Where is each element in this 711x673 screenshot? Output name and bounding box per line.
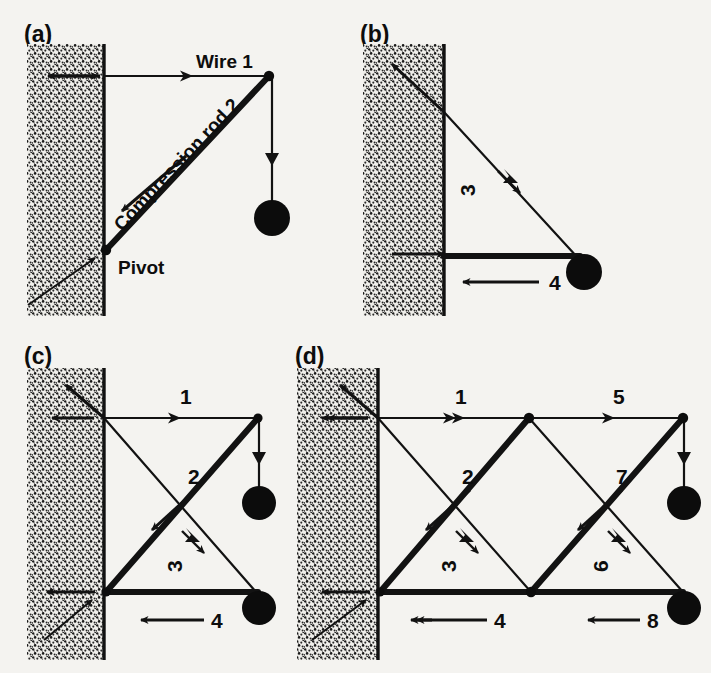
joint-c-top-right — [253, 413, 262, 422]
joint-a-pivot — [101, 245, 111, 255]
joint-d-top-mid — [524, 413, 534, 423]
joint-a-top — [264, 71, 274, 81]
joint-c-bottom-left — [101, 587, 110, 596]
load-hanging-weight-bottom-c — [242, 591, 276, 625]
wall-b — [363, 44, 444, 316]
load-hanging-weight-b — [566, 254, 602, 290]
wall-d — [297, 368, 378, 660]
member-4-number-d: 4 — [494, 609, 506, 632]
member-6-number-d: 6 — [589, 560, 612, 572]
member-8-number-d: 8 — [647, 609, 659, 632]
member-2-number-d: 2 — [462, 465, 474, 488]
member-4-number-c: 4 — [211, 609, 223, 632]
load-hanging-weight-bottom-d — [667, 591, 701, 625]
member-2-number-c: 2 — [188, 465, 200, 488]
joint-d-top-right — [678, 413, 688, 423]
joint-d-bottom-left — [375, 587, 384, 596]
panel-a-label: (a) — [24, 21, 52, 47]
wall-c — [27, 368, 104, 660]
wall-a — [27, 44, 104, 316]
panel-b-label: (b) — [360, 21, 389, 47]
pivot-label: Pivot — [118, 257, 165, 278]
panel-c-label: (c) — [24, 343, 52, 369]
figure-canvas: (a) Wire 1 — [0, 0, 711, 673]
joint-d-bottom-mid — [526, 587, 536, 597]
panel-d-label: (d) — [295, 343, 324, 369]
member-5-number-d: 5 — [613, 385, 625, 408]
member-1-number-d: 1 — [455, 385, 467, 408]
truss-figure: (a) Wire 1 — [0, 0, 711, 673]
member-3-number: 3 — [456, 184, 479, 196]
wire-1-label: Wire 1 — [196, 51, 253, 72]
member-4-number: 4 — [549, 271, 561, 294]
member-7-number-d: 7 — [616, 465, 628, 488]
member-1-number-c: 1 — [180, 385, 192, 408]
member-3-number-d: 3 — [437, 560, 460, 572]
member-3-number-c: 3 — [163, 560, 186, 572]
